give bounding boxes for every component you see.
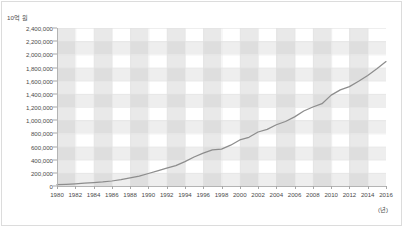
x-tick-mark [386,186,387,189]
x-tick-mark [240,186,241,189]
x-tick-label: 2006 [288,191,302,198]
x-tick-label: 1982 [68,191,82,198]
x-tick-label: 1986 [105,191,119,198]
x-tick-label: 1996 [196,191,210,198]
x-tick-mark [349,186,350,189]
y-tick-mark [53,28,57,29]
y-tick-mark [53,107,57,108]
x-tick-label: 1994 [178,191,192,198]
x-tick-mark [185,186,186,189]
chart-container: 10억 원 2,400,0002,200,0002,000,0001,800,0… [0,0,403,227]
x-tick-mark [203,186,204,189]
x-tick-label: 1980 [50,191,64,198]
y-tick-mark [53,186,57,187]
x-tick-label: 1998 [215,191,229,198]
y-tick-mark [53,80,57,81]
x-tick-label: 2004 [270,191,284,198]
x-tick-mark [331,186,332,189]
x-tick-mark [313,186,314,189]
x-tick-mark [295,186,296,189]
x-tick-label: 2010 [324,191,338,198]
y-tick-mark [53,93,57,94]
x-tick-mark [130,186,131,189]
x-tick-mark [148,186,149,189]
x-tick-mark [167,186,168,189]
x-tick-label: 2002 [251,191,265,198]
x-axis-unit-label: (년) [378,205,388,214]
y-tick-mark [53,133,57,134]
x-tick-label: 2000 [233,191,247,198]
x-tick-mark [222,186,223,189]
x-tick-mark [112,186,113,189]
y-tick-mark [53,41,57,42]
y-tick-mark [53,159,57,160]
y-tick-mark [53,120,57,121]
x-tick-label: 1990 [142,191,156,198]
x-tick-mark [368,186,369,189]
x-tick-mark [258,186,259,189]
x-tick-mark [276,186,277,189]
x-tick-label: 1988 [123,191,137,198]
x-tick-label: 1992 [160,191,174,198]
x-tick-label: 1984 [87,191,101,198]
x-axis-tick-labels: 1980198219841986198819901992199419961998… [0,0,403,227]
x-tick-label: 2014 [361,191,375,198]
y-tick-mark [53,67,57,68]
y-tick-mark [53,172,57,173]
x-tick-mark [94,186,95,189]
x-tick-label: 2012 [343,191,357,198]
x-tick-mark [75,186,76,189]
y-tick-mark [53,146,57,147]
x-tick-label: 2008 [306,191,320,198]
x-tick-mark [57,186,58,189]
x-tick-label: 2016 [379,191,393,198]
y-tick-mark [53,54,57,55]
